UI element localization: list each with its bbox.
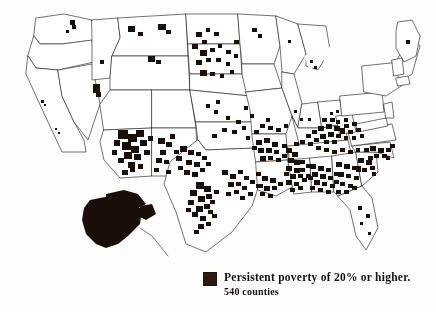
legend-label-count: 540 counties	[224, 286, 411, 298]
map-legend: Persistent poverty of 20% or higher. 540…	[203, 271, 411, 298]
filled-square-icon	[203, 272, 217, 286]
legend-label-primary: Persistent poverty of 20% or higher.	[224, 271, 411, 284]
poverty-map-figure: Persistent poverty counties of the Unite…	[0, 0, 436, 312]
us-county-choropleth-map	[0, 0, 436, 312]
legend-text-block: Persistent poverty of 20% or higher. 540…	[224, 271, 411, 298]
